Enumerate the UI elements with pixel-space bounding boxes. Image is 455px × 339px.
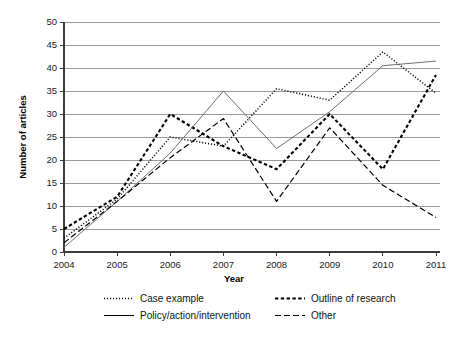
legend-item[interactable]: Policy/action/intervention xyxy=(104,310,251,321)
y-tick-label: 50 xyxy=(46,16,57,27)
series-line xyxy=(64,61,436,247)
x-tick-label: 2004 xyxy=(53,259,74,270)
y-tick-label: 30 xyxy=(46,108,57,119)
x-tick-label: 2006 xyxy=(160,259,181,270)
y-tick-label: 10 xyxy=(46,200,57,211)
x-tick-label: 2010 xyxy=(372,259,393,270)
y-tick-label: 35 xyxy=(46,85,57,96)
y-tick-label: 0 xyxy=(52,246,57,257)
y-tick-label: 45 xyxy=(46,39,57,50)
chart-legend: Case exampleOutline of researchPolicy/ac… xyxy=(104,293,396,321)
chart-figure: 05101520253035404550 2004200520062007200… xyxy=(0,0,455,339)
y-tick-label: 15 xyxy=(46,177,57,188)
x-axis-ticks: 20042005200620072008200920102011 xyxy=(53,252,446,270)
legend-label: Other xyxy=(311,310,337,321)
legend-label: Policy/action/intervention xyxy=(140,310,251,321)
x-tick-label: 2007 xyxy=(213,259,234,270)
series-line xyxy=(64,52,436,238)
legend-label: Case example xyxy=(140,293,204,304)
y-tick-label: 20 xyxy=(46,154,57,165)
legend-item[interactable]: Case example xyxy=(104,293,204,304)
x-tick-label: 2005 xyxy=(107,259,128,270)
x-axis-title: Year xyxy=(224,273,244,284)
legend-item[interactable]: Other xyxy=(275,310,337,321)
legend-item[interactable]: Outline of research xyxy=(275,293,396,304)
x-tick-label: 2009 xyxy=(319,259,340,270)
x-tick-label: 2008 xyxy=(266,259,287,270)
y-tick-label: 40 xyxy=(46,62,57,73)
y-tick-label: 25 xyxy=(46,131,57,142)
line-chart: 05101520253035404550 2004200520062007200… xyxy=(0,0,455,339)
series-layer xyxy=(64,52,436,248)
legend-label: Outline of research xyxy=(311,293,396,304)
x-tick-label: 2011 xyxy=(426,259,446,270)
y-axis-title: Number of articles xyxy=(17,95,28,178)
y-tick-label: 5 xyxy=(52,223,57,234)
y-axis-ticks: 05101520253035404550 xyxy=(46,16,64,257)
